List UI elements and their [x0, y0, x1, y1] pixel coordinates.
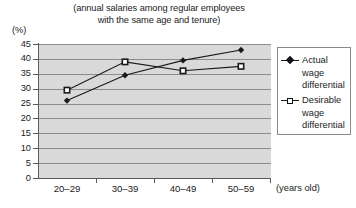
x-tick-mark [270, 178, 271, 183]
gridline [39, 163, 271, 164]
gridline [39, 74, 271, 75]
gridline [39, 59, 271, 60]
y-tick-mark [33, 163, 38, 164]
legend-label-desirable-line-1: Desirable [302, 94, 354, 107]
y-tick-label: 30 [9, 84, 31, 93]
x-tick-label: 20–29 [37, 183, 97, 194]
legend-label-actual-line-1: Actual [302, 54, 354, 67]
y-tick-label: 45 [9, 40, 31, 49]
square-marker-icon [281, 96, 299, 105]
y-tick-label: 40 [9, 54, 31, 63]
legend-label-actual-line-2: wage [302, 67, 354, 80]
y-tick-label: 20 [9, 114, 31, 123]
legend-label-actual-line-3: differential [302, 79, 354, 92]
y-tick-label: 15 [9, 129, 31, 138]
gridline [39, 104, 271, 105]
chart-title-line-2: with the same age and tenure) [44, 15, 274, 27]
y-tick-mark [33, 44, 38, 45]
y-tick-label: 10 [9, 144, 31, 153]
y-tick-label: 35 [9, 69, 31, 78]
x-axis-unit-label: (years old) [276, 183, 320, 193]
chart-title: (annual salaries among regular employees… [44, 3, 274, 26]
wage-differential-chart: (annual salaries among regular employees… [0, 0, 356, 208]
legend-label-desirable-line-3: differential [302, 119, 354, 132]
y-tick-mark [33, 104, 38, 105]
gridline [39, 89, 271, 90]
x-tick-label: 50–59 [211, 183, 271, 194]
y-tick-label: 5 [9, 159, 31, 168]
y-tick-mark [33, 133, 38, 134]
chart-legend: Actual wage differential Desirable wage … [277, 47, 351, 135]
legend-label-desirable: Desirable wage differential [302, 94, 354, 132]
y-tick-mark [33, 178, 38, 179]
y-tick-mark [33, 59, 38, 60]
x-tick-label: 30–39 [95, 183, 155, 194]
chart-title-line-1: (annual salaries among regular employees [44, 3, 274, 15]
y-axis-line [38, 43, 39, 179]
y-tick-mark [33, 74, 38, 75]
plot-area [38, 44, 271, 178]
y-tick-label: 25 [9, 99, 31, 108]
legend-label-desirable-line-2: wage [302, 107, 354, 120]
y-tick-mark [33, 148, 38, 149]
gridline [39, 148, 271, 149]
y-axis-unit-label: (%) [12, 25, 26, 35]
gridline [39, 118, 271, 119]
y-tick-mark [33, 118, 38, 119]
x-tick-label: 40–49 [153, 183, 213, 194]
gridline [39, 133, 271, 134]
gridline [39, 44, 271, 45]
legend-label-actual: Actual wage differential [302, 54, 354, 92]
diamond-marker-icon [281, 56, 299, 65]
y-tick-mark [33, 89, 38, 90]
y-tick-label: 0 [9, 174, 31, 183]
